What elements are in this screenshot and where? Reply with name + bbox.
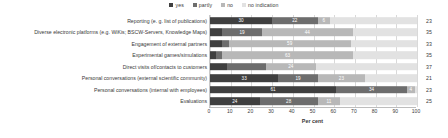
legend-item-no-indication: no indication — [242, 2, 278, 8]
bar-segment-no-indication — [351, 40, 417, 48]
legend-item-no: no — [221, 2, 233, 8]
bar-segment-no: 6 — [318, 17, 330, 25]
sample-size-value: 25 — [416, 96, 442, 108]
legend-label-no-indication: no indication — [248, 2, 278, 8]
bar-segment-no-indication — [330, 17, 417, 25]
category-label: Personal conversations (internal with em… — [94, 87, 210, 93]
bar-segment-partly: 34 — [336, 86, 406, 94]
bar-segment-no-indication — [353, 28, 417, 36]
chart-legend: yes partly no no indication — [0, 2, 448, 8]
category-label: Diverse electronic platforms (e.g. WiKis… — [34, 29, 210, 35]
bar-value-label: 30 — [238, 18, 243, 23]
stacked-bar: 59 — [210, 40, 417, 48]
x-tick-label: 30 — [268, 108, 274, 114]
bar-value-label: 23 — [339, 76, 344, 81]
bar-segment-no: 59 — [229, 40, 351, 48]
plot-area: Reporting (e. g. list of publications)30… — [209, 15, 417, 107]
bar-segment-partly: 22 — [272, 17, 318, 25]
x-tick-label: 60 — [330, 108, 336, 114]
bar-row: Direct visits of/contacts to customers24 — [210, 61, 417, 73]
stacked-bar: 1944 — [210, 28, 417, 36]
bar-value-label: 19 — [295, 76, 300, 81]
sample-size-column: 2335333537212325 — [416, 15, 448, 107]
bar-segment-no-indication — [353, 51, 417, 59]
stacked-bar: 30226 — [210, 17, 417, 25]
bar-rows: Reporting (e. g. list of publications)30… — [210, 15, 417, 107]
legend-label-yes: yes — [175, 2, 183, 8]
bar-segment-yes: 30 — [210, 17, 272, 25]
legend-label-no: no — [227, 2, 233, 8]
bar-value-label: 19 — [240, 30, 245, 35]
stacked-bar: 331923 — [210, 74, 417, 82]
bar-segment-partly: 19 — [222, 28, 261, 36]
bar-row: Evaluations242811 — [210, 96, 417, 108]
category-label: Evaluations — [180, 98, 210, 104]
bar-value-label: 22 — [292, 18, 297, 23]
bar-value-label: 6 — [323, 18, 326, 23]
sample-size-value: 35 — [416, 27, 442, 39]
bar-row: Reporting (e. g. list of publications)30… — [210, 15, 417, 27]
bar-row: Personal conversations (internal with em… — [210, 84, 417, 96]
bar-segment-yes: 61 — [210, 86, 336, 94]
bar-segment-no: 24 — [266, 63, 316, 71]
sample-size-value: 23 — [416, 15, 442, 27]
x-axis-title: Per cent — [209, 118, 416, 124]
stacked-bar: 61344 — [210, 86, 417, 94]
category-label: Reporting (e. g. list of publications) — [127, 18, 210, 24]
bar-value-label: 33 — [242, 76, 247, 81]
bar-value-label: 61 — [271, 87, 276, 92]
bar-value-label: 34 — [369, 87, 374, 92]
legend-swatch-no-indication-icon — [242, 3, 246, 7]
bar-segment-no: 63 — [222, 51, 352, 59]
stacked-bar: 242811 — [210, 97, 417, 105]
legend-label-partly: partly — [199, 2, 212, 8]
sample-size-value: 37 — [416, 61, 442, 73]
bar-segment-partly: 28 — [260, 97, 318, 105]
bar-row: Engagement of external partners59 — [210, 38, 417, 50]
sample-size-value: 23 — [416, 84, 442, 96]
x-tick-label: 70 — [351, 108, 357, 114]
bar-value-label: 24 — [232, 99, 237, 104]
bar-segment-no: 4 — [407, 86, 415, 94]
bar-row: Personal conversations (external scienti… — [210, 73, 417, 85]
x-tick-label: 10 — [227, 108, 233, 114]
stacked-bar: 63 — [210, 51, 417, 59]
sample-size-value: 35 — [416, 50, 442, 62]
sample-size-value: 33 — [416, 38, 442, 50]
x-tick-label: 90 — [393, 108, 399, 114]
bar-segment-yes — [210, 63, 227, 71]
category-label: Direct visits of/contacts to customers — [123, 64, 210, 70]
bar-segment-yes: 33 — [210, 74, 278, 82]
category-label: Personal conversations (external scienti… — [82, 75, 210, 81]
bar-segment-no-indication — [316, 63, 417, 71]
bar-value-label: 59 — [287, 41, 292, 46]
x-axis-ticks: 0102030405060708090100 — [209, 108, 416, 117]
legend-item-yes: yes — [169, 2, 183, 8]
x-tick-label: 20 — [248, 108, 254, 114]
bar-segment-yes — [210, 28, 222, 36]
legend-swatch-no-icon — [221, 3, 225, 7]
bar-segment-yes: 24 — [210, 97, 260, 105]
bar-segment-yes — [210, 40, 222, 48]
bar-value-label: 44 — [305, 30, 310, 35]
stacked-bar: 24 — [210, 63, 417, 71]
category-label: Engagement of external partners — [131, 41, 210, 47]
bar-value-label: 11 — [327, 99, 332, 104]
legend-swatch-yes-icon — [169, 3, 173, 7]
bar-row: Diverse electronic platforms (e.g. WiKis… — [210, 27, 417, 39]
bar-segment-no: 44 — [262, 28, 353, 36]
bar-value-label: 28 — [286, 99, 291, 104]
bar-segment-partly: 19 — [278, 74, 317, 82]
x-tick-label: 0 — [208, 108, 211, 114]
bar-segment-partly — [227, 63, 266, 71]
stacked-bar-chart: yes partly no no indication Reporting (e… — [0, 0, 448, 138]
bar-value-label: 63 — [285, 53, 290, 58]
legend-item-partly: partly — [193, 2, 212, 8]
x-tick-label: 80 — [372, 108, 378, 114]
x-tick-label: 50 — [310, 108, 316, 114]
legend-swatch-partly-icon — [193, 3, 197, 7]
bar-value-label: 4 — [409, 87, 412, 92]
bar-segment-no-indication — [340, 97, 417, 105]
x-tick-label: 40 — [289, 108, 295, 114]
bar-segment-no: 23 — [318, 74, 366, 82]
